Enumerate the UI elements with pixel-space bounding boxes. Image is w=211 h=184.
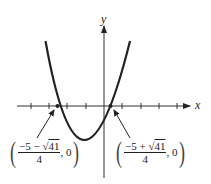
right-root-label: ( −5 + √41 4 , 0 ) <box>114 137 187 167</box>
x-axis-label: x <box>195 98 200 113</box>
y-axis-label: y <box>101 12 106 27</box>
right-root-arrow <box>114 110 130 138</box>
left-root-arrow <box>37 110 54 138</box>
parabola-curve <box>46 41 131 140</box>
left-root-label: ( −5 − √41 4 , 0 ) <box>8 137 81 167</box>
